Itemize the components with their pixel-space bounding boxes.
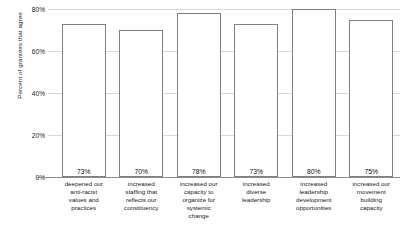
bar-series: 73%70%78%73%80%75% <box>55 9 400 177</box>
plot-area: 0%20%40%60%80% 73%70%78%73%80%75% <box>55 9 400 177</box>
bar-chart: Percent of grantees that agree 0%20%40%6… <box>0 0 408 230</box>
category-label-line: increased <box>285 180 343 188</box>
category-label-line: reflects our <box>113 196 171 204</box>
category-label-line: staffing that <box>113 188 171 196</box>
bar-slot: 70% <box>119 9 163 177</box>
bar-value-label: 70% <box>119 168 163 175</box>
y-axis-tick-mark <box>48 93 55 94</box>
y-axis-tick-label: 40% <box>32 90 45 97</box>
bar[interactable] <box>234 24 278 177</box>
category-label-line: leadership <box>228 196 286 204</box>
category-label-line: values and <box>55 196 113 204</box>
category-label-line: capacity <box>343 204 401 212</box>
x-axis-category-label: deepened ouranti-racistvalues andpractic… <box>55 180 113 212</box>
y-axis-tick-label: 20% <box>32 132 45 139</box>
category-label-line: anti-racist <box>55 188 113 196</box>
category-label-line: building <box>343 196 401 204</box>
bar[interactable] <box>292 9 336 177</box>
category-label-line: development <box>285 196 343 204</box>
bar-slot: 80% <box>292 9 336 177</box>
bar[interactable] <box>349 20 393 178</box>
category-label-line: increased our <box>170 180 228 188</box>
x-axis-category-label: increased ourmovementbuildingcapacity <box>343 180 401 212</box>
y-axis-title: Percent of grantees that agree <box>16 0 23 131</box>
bar-value-label: 73% <box>234 168 278 175</box>
category-label-line: systemic <box>170 204 228 212</box>
bar-value-label: 75% <box>349 168 393 175</box>
bar[interactable] <box>177 13 221 177</box>
bar-slot: 78% <box>177 9 221 177</box>
y-axis-tick-label: 80% <box>32 6 45 13</box>
category-label-line: diverse <box>228 188 286 196</box>
bar-value-label: 73% <box>62 168 106 175</box>
bar-value-label: 78% <box>177 168 221 175</box>
category-label-line: organize for <box>170 196 228 204</box>
y-axis-tick-label: 60% <box>32 48 45 55</box>
y-axis-tick-mark <box>48 51 55 52</box>
x-axis-line <box>37 177 400 178</box>
category-label-line: deepened our <box>55 180 113 188</box>
bar-value-label: 80% <box>292 168 336 175</box>
bar[interactable] <box>62 24 106 177</box>
category-label-line: leadership <box>285 188 343 196</box>
x-axis-category-label: increasedstaffing thatreflects ourconsti… <box>113 180 171 212</box>
bar-slot: 73% <box>62 9 106 177</box>
category-label-line: capacity to <box>170 188 228 196</box>
category-label-line: increased our <box>343 180 401 188</box>
bar-slot: 73% <box>234 9 278 177</box>
x-axis-category-label: increasedleadershipdevelopmentopportunit… <box>285 180 343 212</box>
x-axis-category-label: increaseddiverseleadership <box>228 180 286 204</box>
category-label-line: constituency <box>113 204 171 212</box>
x-axis-category-labels: deepened ouranti-racistvalues andpractic… <box>55 180 400 228</box>
category-label-line: practices <box>55 204 113 212</box>
category-label-line: opportunities <box>285 204 343 212</box>
x-axis-category-label: increased ourcapacity toorganize forsyst… <box>170 180 228 220</box>
bar[interactable] <box>119 30 163 177</box>
category-label-line: increased <box>228 180 286 188</box>
y-axis-tick-mark <box>48 9 55 10</box>
category-label-line: change <box>170 212 228 220</box>
category-label-line: movement <box>343 188 401 196</box>
category-label-line: increased <box>113 180 171 188</box>
y-axis-tick-mark <box>48 135 55 136</box>
bar-slot: 75% <box>349 9 393 177</box>
